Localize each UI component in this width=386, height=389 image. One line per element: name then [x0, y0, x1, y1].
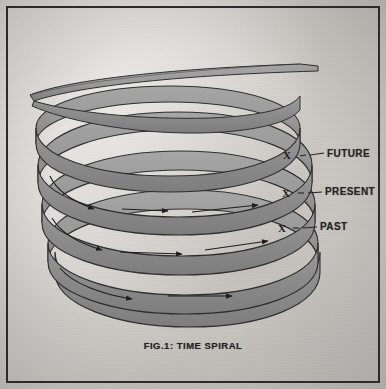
- figure-page: X X X FUTURE PRESENT PAST FIG.1: TIME SP…: [0, 0, 386, 389]
- x-marker-present: X: [282, 187, 290, 199]
- label-present: PRESENT: [325, 186, 375, 197]
- x-marker-past: X: [278, 222, 286, 234]
- x-marker-future: X: [283, 149, 291, 161]
- figure-caption: FIG.1: TIME SPIRAL: [0, 340, 386, 351]
- leader-line-future: [310, 153, 324, 155]
- label-past: PAST: [320, 221, 348, 232]
- spiral-ribbon-group: [30, 64, 320, 327]
- label-future: FUTURE: [327, 148, 370, 159]
